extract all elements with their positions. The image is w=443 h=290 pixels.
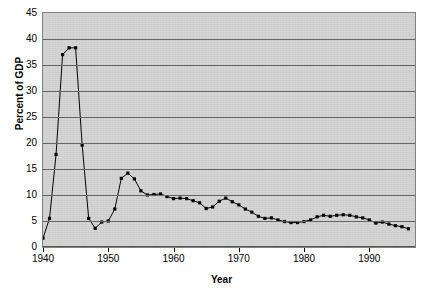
x-tick-mark bbox=[304, 248, 305, 252]
data-point-marker bbox=[205, 207, 208, 210]
data-point-marker bbox=[74, 46, 77, 49]
gridline bbox=[43, 117, 415, 118]
y-tick-label: 40 bbox=[9, 33, 37, 44]
data-point-marker bbox=[172, 197, 175, 200]
data-point-marker bbox=[113, 207, 116, 210]
data-series-line bbox=[43, 13, 415, 247]
data-point-marker bbox=[224, 197, 227, 200]
data-point-marker bbox=[361, 216, 364, 219]
data-point-marker bbox=[400, 225, 403, 228]
data-point-marker bbox=[394, 224, 397, 227]
data-point-marker bbox=[250, 211, 253, 214]
data-point-marker bbox=[87, 217, 90, 220]
data-point-marker bbox=[407, 227, 410, 230]
data-point-marker bbox=[387, 223, 390, 226]
chart-container: 051015202530354045 194019501960197019801… bbox=[0, 0, 443, 290]
data-point-marker bbox=[198, 201, 201, 204]
data-point-marker bbox=[126, 172, 129, 175]
x-tick-mark bbox=[239, 248, 240, 252]
x-tick-label: 1990 bbox=[349, 253, 389, 264]
data-point-marker bbox=[94, 227, 97, 230]
data-point-marker bbox=[211, 205, 214, 208]
gridline bbox=[43, 91, 415, 92]
data-point-marker bbox=[355, 215, 358, 218]
x-tick-label: 1960 bbox=[154, 253, 194, 264]
y-tick-label: 5 bbox=[9, 215, 37, 226]
data-point-marker bbox=[192, 199, 195, 202]
gridline-baseline bbox=[43, 246, 415, 247]
data-point-marker bbox=[237, 203, 240, 206]
x-tick-label: 1940 bbox=[23, 253, 63, 264]
data-point-marker bbox=[322, 214, 325, 217]
data-point-marker bbox=[139, 189, 142, 192]
y-tick-label: 45 bbox=[9, 7, 37, 18]
gridline bbox=[43, 143, 415, 144]
data-point-marker bbox=[218, 200, 221, 203]
data-point-marker bbox=[43, 237, 45, 240]
data-point-marker bbox=[257, 215, 260, 218]
data-point-marker bbox=[263, 217, 266, 220]
data-point-marker bbox=[329, 215, 332, 218]
gridline bbox=[43, 65, 415, 66]
data-point-marker bbox=[316, 215, 319, 218]
y-tick-label: 20 bbox=[9, 137, 37, 148]
data-point-marker bbox=[54, 153, 57, 156]
data-point-marker bbox=[68, 46, 71, 49]
x-tick-label: 1980 bbox=[284, 253, 324, 264]
x-tick-mark bbox=[369, 248, 370, 252]
data-point-marker bbox=[178, 197, 181, 200]
y-tick-label: 15 bbox=[9, 163, 37, 174]
data-point-marker bbox=[270, 216, 273, 219]
gridline bbox=[43, 195, 415, 196]
data-point-marker bbox=[231, 200, 234, 203]
x-axis-title: Year bbox=[0, 274, 443, 285]
x-tick-mark bbox=[174, 248, 175, 252]
data-point-marker bbox=[133, 177, 136, 180]
data-point-marker bbox=[342, 213, 345, 216]
plot-area bbox=[42, 12, 416, 248]
data-point-marker bbox=[61, 53, 64, 56]
x-tick-mark bbox=[43, 248, 44, 252]
y-axis-title: Percent of GDP bbox=[14, 49, 25, 139]
gridline bbox=[43, 169, 415, 170]
data-point-marker bbox=[48, 217, 51, 220]
data-point-marker bbox=[120, 177, 123, 180]
data-point-marker bbox=[244, 207, 247, 210]
gridline bbox=[43, 39, 415, 40]
y-tick-label: 10 bbox=[9, 189, 37, 200]
data-point-marker bbox=[185, 197, 188, 200]
gridline bbox=[43, 221, 415, 222]
x-tick-label: 1970 bbox=[219, 253, 259, 264]
x-tick-label: 1950 bbox=[88, 253, 128, 264]
data-point-marker bbox=[335, 214, 338, 217]
data-point-marker bbox=[348, 214, 351, 217]
y-tick-label: 0 bbox=[9, 241, 37, 252]
x-tick-mark bbox=[108, 248, 109, 252]
